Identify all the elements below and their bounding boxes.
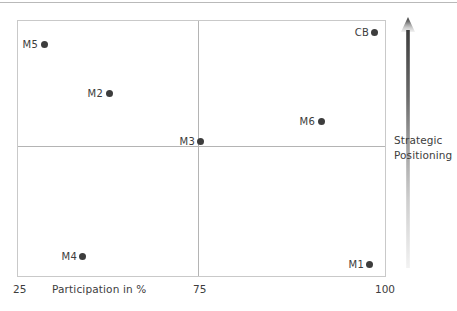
data-point-label: M6	[300, 116, 315, 127]
quadrant-divider-horizontal	[18, 146, 385, 147]
data-point-label: M5	[23, 39, 38, 50]
data-point-marker	[366, 261, 373, 268]
y-axis-caption: Strategic Positioning	[394, 133, 457, 162]
top-divider-rule	[0, 2, 457, 3]
y-axis-caption-line-1: Strategic	[394, 133, 457, 148]
data-point-label: M1	[349, 259, 364, 270]
scatter-plot-area: M5 M2 M3 CB M6 M4 M1	[17, 20, 386, 277]
data-point-label: M3	[180, 136, 195, 147]
x-axis-title: Participation in %	[52, 283, 146, 295]
data-point-marker	[371, 29, 378, 36]
quadrant-divider-vertical	[198, 21, 199, 276]
data-point-marker	[197, 138, 204, 145]
data-point-label: M2	[88, 88, 103, 99]
x-axis-tick-25: 25	[13, 283, 26, 295]
data-point-marker	[106, 90, 113, 97]
data-point-marker	[79, 253, 86, 260]
x-axis-tick-100: 100	[375, 283, 395, 295]
data-point-label: CB	[355, 27, 369, 38]
x-axis-tick-75: 75	[193, 283, 206, 295]
data-point-marker	[41, 41, 48, 48]
data-point-label: M4	[62, 251, 77, 262]
data-point-marker	[318, 118, 325, 125]
y-axis-caption-line-2: Positioning	[394, 148, 457, 163]
